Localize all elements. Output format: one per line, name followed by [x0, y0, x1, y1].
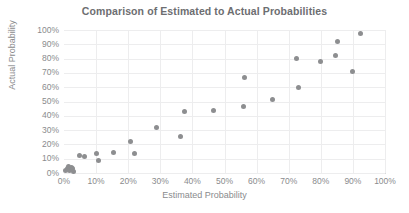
data-point [211, 108, 216, 113]
y-tick-label: 40% [19, 111, 59, 120]
data-point [111, 150, 116, 155]
data-point [333, 53, 338, 58]
data-point [96, 158, 101, 163]
y-tick-label: 10% [19, 154, 59, 163]
y-tick-label: 70% [19, 68, 59, 77]
data-point [182, 109, 187, 114]
gridline-horizontal [64, 173, 385, 174]
y-tick-label: 100% [19, 26, 59, 35]
data-point [178, 134, 183, 139]
data-point [296, 85, 301, 90]
y-axis-title: Actual Probability [7, 0, 17, 115]
data-point [71, 169, 76, 174]
gridline-vertical [385, 30, 386, 173]
y-tick-label: 50% [19, 97, 59, 106]
data-point [294, 56, 299, 61]
y-tick-label: 60% [19, 83, 59, 92]
y-tick-label: 90% [19, 40, 59, 49]
data-point [358, 31, 363, 36]
data-point [128, 139, 133, 144]
scatter-chart: Comparison of Estimated to Actual Probab… [0, 0, 409, 213]
gridline-vertical [257, 30, 258, 173]
plot-area [64, 30, 385, 173]
chart-title: Comparison of Estimated to Actual Probab… [0, 5, 409, 17]
x-tick-label: 100% [363, 176, 407, 186]
data-point [242, 75, 247, 80]
gridline-vertical [225, 30, 226, 173]
gridline-vertical [192, 30, 193, 173]
data-point [132, 151, 137, 156]
data-point [270, 97, 275, 102]
x-axis-title: Estimated Probability [0, 190, 409, 200]
data-point [241, 104, 246, 109]
data-point [350, 69, 355, 74]
gridline-vertical [128, 30, 129, 173]
gridline-vertical [353, 30, 354, 173]
y-tick-label: 20% [19, 140, 59, 149]
gridline-vertical [160, 30, 161, 173]
data-point [335, 39, 340, 44]
data-point [318, 59, 323, 64]
y-tick-label: 80% [19, 54, 59, 63]
data-point [94, 151, 99, 156]
gridline-vertical [321, 30, 322, 173]
y-tick-label: 30% [19, 126, 59, 135]
gridline-vertical [289, 30, 290, 173]
